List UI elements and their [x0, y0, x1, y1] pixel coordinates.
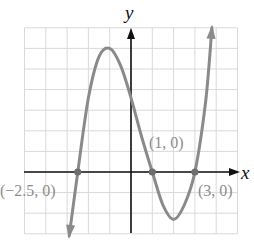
root-label-right: (3, 0): [198, 182, 233, 200]
y-axis-label: y: [123, 2, 134, 23]
root-label-mid: (1, 0): [149, 134, 184, 152]
curve-end-arrow-icon: [66, 224, 75, 238]
root-label-left: (−2.5, 0): [0, 182, 56, 200]
curve: [69, 28, 212, 236]
x-axis-arrow-icon: [229, 168, 240, 176]
root-point: [74, 168, 81, 175]
x-axis-label: x: [240, 162, 250, 183]
y-axis-arrow-icon: [127, 28, 135, 39]
cubic-function-graph: x y (−2.5, 0) (1, 0) (3, 0): [0, 0, 254, 244]
root-point: [191, 168, 198, 175]
root-point: [149, 168, 156, 175]
